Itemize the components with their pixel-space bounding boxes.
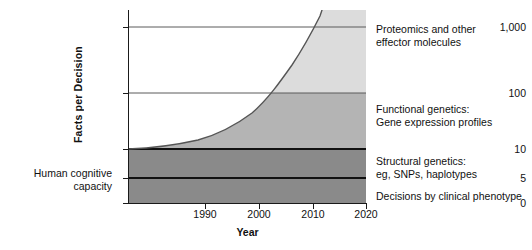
x-tick-label-1990: 1990 — [175, 209, 235, 220]
x-axis-title: Year — [128, 226, 367, 238]
band-functional-genetics — [128, 93, 366, 149]
y-tick-mark-100 — [123, 93, 128, 94]
x-tick-label-2010: 2010 — [283, 209, 343, 220]
annotation-decisions-by-clinical-phenotype: Decisions by clinical phenotype — [376, 190, 522, 203]
y-tick-label-10: 10 — [410, 144, 532, 155]
annotation-structural-genetics: Structural genetics: eg, SNPs, haplotype… — [376, 155, 477, 180]
x-tick-label-2020: 2020 — [336, 209, 396, 220]
annotation-human-cognitive-capacity: Human cognitive capacity — [6, 167, 112, 192]
band-decisions-fill — [128, 178, 366, 203]
y-tick-mark-1000 — [123, 27, 128, 28]
y-tick-mark-10 — [123, 149, 128, 150]
chart-plot-svg — [128, 10, 366, 203]
band-functional-genetics-fill — [128, 93, 366, 149]
band-proteomics — [128, 10, 366, 93]
y-axis-title: Facts per Decision — [72, 30, 88, 160]
band-structural-genetics-fill — [128, 149, 366, 178]
x-axis-line — [128, 203, 367, 204]
y-tick-label-100: 100 — [410, 88, 532, 99]
y-tick-mark-0 — [123, 203, 128, 204]
band-proteomics-fill — [128, 10, 366, 93]
chart-figure: 1,000 100 10 5 0 1990 2000 2010 2020 Fac… — [0, 0, 532, 250]
annotation-functional-genetics: Functional genetics: Gene expression pro… — [376, 103, 492, 128]
annotation-proteomics: Proteomics and other effector molecules — [376, 23, 476, 48]
y-tick-mark-5 — [123, 178, 128, 179]
x-tick-label-2000: 2000 — [229, 209, 289, 220]
y-axis-line — [128, 10, 129, 204]
plot-area — [128, 10, 366, 203]
